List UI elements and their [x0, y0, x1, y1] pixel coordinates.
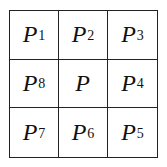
cell-symbol: P [72, 119, 87, 146]
cell-symbol: P [121, 119, 136, 146]
cell-subscript: 5 [137, 126, 144, 142]
cell-symbol: P [23, 70, 38, 97]
cell-symbol: P [23, 119, 38, 146]
cell-p6: P6 [59, 108, 108, 157]
cell-p7: P7 [10, 108, 59, 157]
cell-p-center: P [59, 60, 108, 109]
cell-subscript: 8 [38, 76, 45, 92]
cell-p1: P1 [10, 11, 59, 60]
cell-symbol: P [121, 70, 136, 97]
neighborhood-grid: P1 P2 P3 P8 P P4 P7 P6 P5 [9, 10, 158, 158]
cell-symbol: P [72, 21, 87, 48]
cell-p4: P4 [108, 60, 157, 109]
cell-subscript: 1 [38, 28, 45, 44]
cell-symbol: P [121, 21, 136, 48]
cell-subscript: 2 [87, 28, 94, 44]
cell-p8: P8 [10, 60, 59, 109]
cell-p5: P5 [108, 108, 157, 157]
cell-subscript: 7 [38, 126, 45, 142]
cell-subscript: 4 [137, 76, 144, 92]
cell-symbol: P [23, 21, 38, 48]
cell-p2: P2 [59, 11, 108, 60]
cell-p3: P3 [108, 11, 157, 60]
cell-subscript: 3 [137, 28, 144, 44]
cell-symbol: P [75, 70, 90, 97]
cell-subscript: 6 [87, 126, 94, 142]
